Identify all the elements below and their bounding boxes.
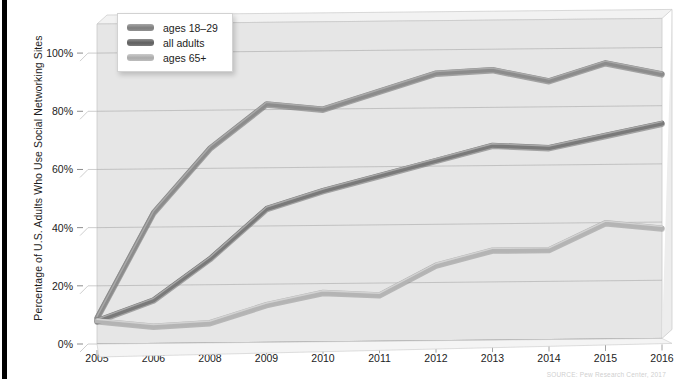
legend-swatch-ages-65-plus: [127, 54, 154, 61]
x-tick-label: 2010: [311, 352, 335, 364]
gridline-ledge: [80, 228, 97, 236]
y-axis-ticks: 0%20%40%60%80%100%: [46, 47, 83, 350]
x-tick-label: 2014: [537, 352, 561, 364]
gridline-ledge: [80, 53, 97, 61]
legend-swatch-all-adults: [127, 39, 154, 46]
legend-label-all-adults: all adults: [163, 37, 204, 49]
y-tick-label: 40%: [52, 222, 73, 234]
x-tick-label: 2015: [594, 352, 618, 364]
source-caption: SOURCE: Pew Research Center, 2017: [547, 371, 666, 378]
gridline-ledge: [80, 286, 97, 294]
gridline-ledges: [80, 53, 97, 352]
y-tick-label: 100%: [46, 47, 73, 59]
gridline-ledge: [80, 169, 97, 177]
x-tick-label: 2013: [481, 352, 505, 364]
x-tick-label: 2011: [368, 352, 391, 364]
x-tick-label: 2012: [424, 352, 448, 364]
legend-swatch-ages-18-29: [127, 24, 154, 31]
legend-label-ages-18-29: ages 18–29: [163, 22, 218, 34]
legend-label-ages-65-plus: ages 65+: [163, 52, 207, 64]
plot-right-face: [662, 9, 672, 338]
chart-legend: ages 18–29 all adults ages 65+: [117, 13, 233, 72]
gridline-ledge: [80, 111, 97, 119]
legend-item-ages-18-29: ages 18–29: [127, 20, 218, 35]
chart-figure: Percentage of U.S. Adults Who Use Social…: [0, 0, 678, 379]
legend-item-ages-65-plus: ages 65+: [127, 50, 218, 65]
x-tick-label: 2016: [650, 352, 674, 364]
y-tick-label: 20%: [52, 280, 73, 292]
gridline-ledge: [80, 344, 97, 352]
y-tick-label: 80%: [52, 105, 73, 117]
line-chart-canvas: 0%20%40%60%80%100% 200520062008200920102…: [0, 0, 678, 379]
y-tick-label: 0%: [58, 338, 73, 350]
legend-item-all-adults: all adults: [127, 35, 218, 50]
y-tick-label: 60%: [52, 163, 73, 175]
